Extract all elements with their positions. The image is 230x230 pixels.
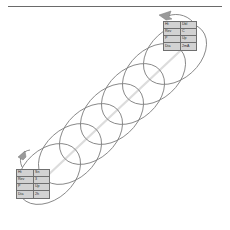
callout-top-label-0: Ht [164,22,181,29]
callout-top-value-2: Up [181,36,197,43]
arrow-heads [18,11,172,160]
callout-top-label-3: Dia [164,43,181,50]
callout-bottom-value-3: 2h [34,191,50,198]
callout-bottom-value-0: Sn [34,170,50,177]
callout-top-label-2: P [164,36,181,43]
callout-top[interactable]: Ht Dbl Rev C P Up Dia 2mA [163,21,197,51]
callout-top-value-3: 2mA [181,43,197,50]
helix-axis [30,36,196,192]
callout-bottom-label-0: Ht [17,170,34,177]
callout-bottom-label-3: Dia [17,191,34,198]
figure-canvas: Ht Dbl Rev C P Up Dia 2mA Ht Sn Rev 3 P … [0,0,230,230]
callout-top-value-1: C [181,29,197,36]
callout-top-value-0: Dbl [181,22,197,29]
callout-top-label-1: Rev [164,29,181,36]
callout-bottom[interactable]: Ht Sn Rev 3 P Up Dia 2h [16,169,50,199]
callout-bottom-value-1: 3 [34,177,50,184]
callout-bottom-label-1: Rev [17,177,34,184]
arrow-head-up-left-icon [18,151,26,160]
callout-bottom-value-2: Up [34,184,50,191]
callout-bottom-label-2: P [17,184,34,191]
